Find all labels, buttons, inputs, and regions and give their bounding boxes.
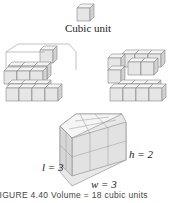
partial-box-right: [108, 50, 166, 101]
full-box: [60, 114, 126, 186]
partial-box-left: [4, 44, 76, 101]
unit-cube: [77, 4, 94, 21]
figure-caption: FIGURE 4.40 Volume = 18 cubic units: [0, 190, 148, 200]
cubic-unit-label: Cubic unit: [65, 22, 111, 34]
height-label: h = 2: [129, 148, 153, 160]
length-label: l = 3: [42, 161, 63, 173]
width-label: w = 3: [91, 178, 117, 190]
